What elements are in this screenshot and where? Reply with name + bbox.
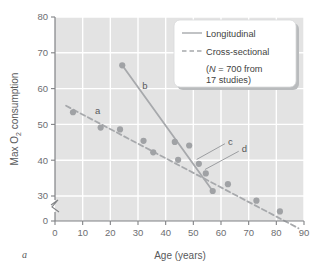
data-point [150, 149, 156, 155]
data-point [172, 139, 178, 145]
x-tick-label: 70 [243, 227, 254, 238]
y-tick-label: 40 [37, 155, 48, 166]
x-axis-ticks: 0102030405060708090 [52, 221, 309, 238]
data-point [117, 126, 123, 132]
x-tick-label: 80 [271, 227, 282, 238]
x-tick-label: 50 [188, 227, 199, 238]
x-tick-label: 40 [160, 227, 171, 238]
data-point [225, 181, 231, 187]
annotation-label-d: d [242, 143, 247, 154]
x-axis-title: Age (years) [154, 250, 206, 261]
data-point [196, 161, 202, 167]
data-point [253, 198, 259, 204]
data-point [277, 208, 283, 214]
max-o2-consumption-vs-age-chart: abcd 0102030405060708090 0304050607080 A… [0, 0, 321, 269]
legend-note-line-1: (N = 700 from [206, 64, 263, 74]
figure-panel: abcd 0102030405060708090 0304050607080 A… [0, 0, 321, 269]
y-axis-title-pre: Max O [9, 136, 20, 166]
legend-note-value: = 700 from [216, 64, 263, 74]
x-tick-label: 10 [77, 227, 88, 238]
y-tick-label: 60 [37, 83, 48, 94]
x-tick-label: 20 [105, 227, 116, 238]
x-tick-label: 90 [299, 227, 310, 238]
data-point [98, 125, 104, 131]
x-tick-label: 60 [216, 227, 227, 238]
data-point [70, 109, 76, 115]
data-point [175, 157, 181, 163]
x-tick-label: 30 [133, 227, 144, 238]
data-point [203, 170, 209, 176]
panel-label: a [22, 249, 27, 260]
y-tick-label: 70 [37, 47, 48, 58]
y-tick-label: 80 [37, 11, 48, 22]
data-point [119, 62, 125, 68]
annotation-label-c: c [228, 136, 233, 147]
legend-label-longitudinal: Longitudinal [206, 29, 256, 39]
annotation-label-b: b [142, 80, 147, 91]
y-tick-label: 30 [37, 190, 48, 201]
data-point [210, 188, 216, 194]
y-tick-label: 50 [37, 119, 48, 130]
y-tick-label: 0 [43, 215, 48, 226]
annotation-label-a: a [95, 105, 101, 116]
y-axis-title: Max O2 consumption [9, 73, 22, 166]
legend-label-cross-sectional: Cross-sectional [206, 47, 269, 57]
legend-note-line-2: 17 studies) [206, 75, 251, 85]
y-axis-ticks: 0304050607080 [37, 11, 55, 226]
chart-legend: Longitudinal Cross-sectional (N = 700 fr… [174, 20, 299, 90]
data-point [140, 138, 146, 144]
data-point [186, 142, 192, 148]
y-axis-title-post: consumption [9, 73, 20, 132]
x-tick-label: 0 [52, 227, 57, 238]
